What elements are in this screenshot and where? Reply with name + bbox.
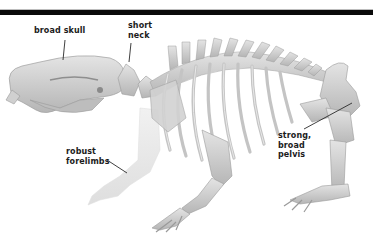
skull xyxy=(6,56,126,113)
near-forelimb xyxy=(152,130,232,232)
label-line: robust xyxy=(66,147,110,157)
forelimbs-leader-line xyxy=(107,160,127,173)
label-line: broad skull xyxy=(34,26,85,36)
label-line: forelimbs xyxy=(66,157,110,167)
label-short-neck: short neck xyxy=(128,21,152,40)
hindlimb xyxy=(284,108,354,212)
label-strong-broad-pelvis: strong, broad pelvis xyxy=(278,131,311,160)
label-line: neck xyxy=(128,31,152,41)
label-line: strong, xyxy=(278,131,311,141)
label-line: broad xyxy=(278,141,311,151)
label-line: pelvis xyxy=(278,150,311,160)
label-line: short xyxy=(128,21,152,31)
neck-leader-line xyxy=(129,43,131,62)
label-robust-forelimbs: robust forelimbs xyxy=(66,147,110,166)
label-broad-skull: broad skull xyxy=(34,26,85,36)
